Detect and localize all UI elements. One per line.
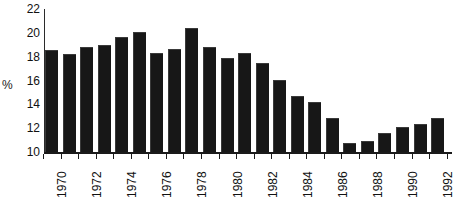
x-axis-tick-mark — [359, 154, 360, 159]
x-axis-tick-mark — [219, 154, 220, 159]
bar — [343, 143, 356, 152]
x-axis-tick-mark — [289, 154, 290, 159]
x-axis-tick-label: 1978 — [196, 158, 208, 198]
x-axis-tick-label: 1984 — [302, 158, 314, 198]
y-axis-tick-label: 14 — [18, 98, 40, 110]
bar — [431, 118, 444, 152]
bar — [238, 53, 251, 152]
y-axis-tick-label: 18 — [18, 51, 40, 63]
y-axis-tick-label: 22 — [18, 3, 40, 15]
bar — [133, 32, 146, 152]
bar — [414, 124, 427, 152]
x-axis-tick-mark — [113, 154, 114, 159]
x-axis-tick-label: 1982 — [267, 158, 279, 198]
x-axis-tick-label: 1974 — [126, 158, 138, 198]
bar — [168, 49, 181, 152]
bar-chart: % 10121416182022 19701972197419761978198… — [0, 0, 455, 201]
bar-series — [45, 9, 452, 152]
x-axis-tick-label: 1980 — [232, 158, 244, 198]
bar — [45, 50, 58, 152]
y-axis-tick-label: 10 — [18, 146, 40, 158]
bar — [291, 96, 304, 152]
x-axis-tick-mark — [43, 154, 44, 159]
bar — [256, 63, 269, 152]
bar — [185, 28, 198, 152]
x-axis-tick-label: 1988 — [372, 158, 384, 198]
y-axis-tick-label: 20 — [18, 27, 40, 39]
y-axis-tick-label: 16 — [18, 75, 40, 87]
bar — [326, 118, 339, 152]
x-axis-tick-mark — [183, 154, 184, 159]
x-axis-tick-label: 1970 — [56, 158, 68, 198]
bar — [308, 102, 321, 152]
x-axis-tick-mark — [429, 154, 430, 159]
bar — [273, 80, 286, 153]
x-axis-line — [44, 152, 452, 154]
bar — [203, 47, 216, 152]
x-axis-tick-label: 1990 — [407, 158, 419, 198]
y-axis-title: % — [2, 79, 13, 91]
x-axis-tick-mark — [78, 154, 79, 159]
bar — [221, 58, 234, 152]
bar — [63, 54, 76, 152]
x-axis-tick-mark — [254, 154, 255, 159]
bar — [80, 47, 93, 152]
x-axis-tick-mark — [324, 154, 325, 159]
bar — [150, 53, 163, 152]
bar — [378, 133, 391, 152]
x-axis-tick-mark — [394, 154, 395, 159]
y-axis-tick-label: 12 — [18, 122, 40, 134]
bar — [361, 141, 374, 152]
x-axis-tick-label: 1976 — [161, 158, 173, 198]
x-axis-tick-label: 1992 — [442, 158, 454, 198]
bar — [98, 45, 111, 152]
x-axis-tick-label: 1986 — [337, 158, 349, 198]
bar — [115, 37, 128, 152]
x-axis-tick-label: 1972 — [91, 158, 103, 198]
bar — [396, 127, 409, 152]
x-axis-tick-mark — [148, 154, 149, 159]
